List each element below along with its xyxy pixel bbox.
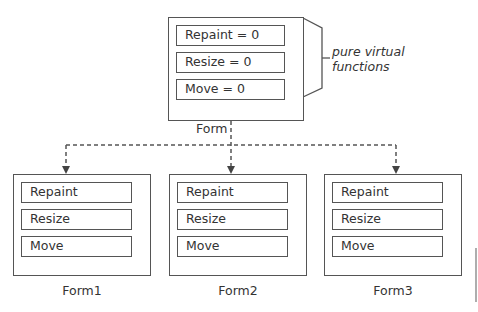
form2-method-repaint: Repaint bbox=[177, 182, 288, 203]
base-class-label: Form bbox=[196, 121, 226, 136]
form2-label: Form2 bbox=[169, 283, 307, 298]
note-line-1: pure virtual bbox=[332, 44, 405, 59]
form1-method-resize: Resize bbox=[21, 209, 132, 230]
base-method-move: Move = 0 bbox=[176, 79, 285, 100]
inheritance-arrows bbox=[66, 121, 396, 167]
bracket bbox=[303, 18, 322, 97]
note-line-2: functions bbox=[332, 59, 405, 74]
base-method-repaint: Repaint = 0 bbox=[176, 25, 285, 46]
form3-method-resize: Resize bbox=[332, 209, 443, 230]
form1-label: Form1 bbox=[13, 283, 151, 298]
base-method-resize: Resize = 0 bbox=[176, 52, 285, 73]
pure-virtual-note: pure virtual functions bbox=[332, 44, 405, 74]
form3-method-repaint: Repaint bbox=[332, 182, 443, 203]
arrowheads bbox=[62, 166, 400, 174]
form2-method-move: Move bbox=[177, 236, 288, 257]
form1-method-repaint: Repaint bbox=[21, 182, 132, 203]
form2-method-resize: Resize bbox=[177, 209, 288, 230]
form1-method-move: Move bbox=[21, 236, 132, 257]
form3-method-move: Move bbox=[332, 236, 443, 257]
form3-label: Form3 bbox=[324, 283, 462, 298]
